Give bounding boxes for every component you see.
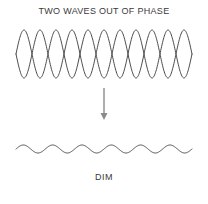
input-waves-group [16, 30, 192, 78]
arrow-head-icon [101, 113, 108, 120]
resultant-wave-group [16, 145, 192, 153]
figure-canvas: TWO WAVES OUT OF PHASE DIM [0, 0, 208, 204]
transition-arrow [101, 88, 108, 120]
resultant-wave-path [16, 145, 192, 153]
figure-caption: DIM [0, 172, 208, 182]
wave-a-path [16, 30, 192, 78]
wave-b-path [16, 30, 192, 78]
